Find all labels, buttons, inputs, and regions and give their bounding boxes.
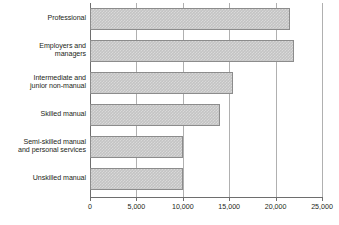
- category-label: Intermediate and junior non-manual: [0, 74, 86, 91]
- category-label: Semi-skilled manual and personal service…: [0, 138, 86, 155]
- x-axis-tick: [90, 197, 91, 201]
- x-axis-tick: [276, 197, 277, 201]
- x-axis-tick-label: 0: [88, 203, 92, 212]
- bar: [90, 8, 290, 30]
- bar: [90, 168, 183, 190]
- x-axis-tick-label: 20,000: [265, 203, 287, 212]
- category-axis: ProfessionalEmployers and managersInterm…: [0, 0, 86, 197]
- bar: [90, 136, 183, 158]
- plot-area: [90, 3, 322, 197]
- x-axis-line: [90, 197, 323, 198]
- x-axis-tick: [322, 197, 323, 201]
- category-label: Employers and managers: [0, 42, 86, 59]
- bar-chart: ProfessionalEmployers and managersInterm…: [0, 0, 339, 225]
- category-label: Professional: [0, 14, 86, 23]
- bar: [90, 104, 220, 126]
- x-axis-tick-label: 25,000: [311, 203, 333, 212]
- x-axis-tick: [136, 197, 137, 201]
- x-axis-tick-label: 10,000: [172, 203, 194, 212]
- x-axis-tick-label: 15,000: [218, 203, 240, 212]
- x-axis-tick: [183, 197, 184, 201]
- x-axis-tick: [229, 197, 230, 201]
- bars-layer: [90, 3, 322, 197]
- category-label: Skilled manual: [0, 110, 86, 119]
- bar: [90, 40, 294, 62]
- gridline-25000: [322, 3, 323, 197]
- x-axis-tick-label: 5,000: [128, 203, 146, 212]
- bar: [90, 72, 233, 94]
- category-label: Unskilled manual: [0, 174, 86, 183]
